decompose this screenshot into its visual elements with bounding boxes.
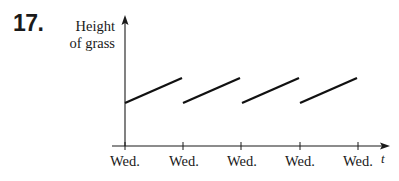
data-series-height-of-grass [125,78,357,103]
x-tick-label: Wed. [285,153,315,169]
x-tick-label: Wed. [110,153,140,169]
x-tick-label: Wed. [169,153,199,169]
segment-3 [242,78,299,103]
x-tick-label: Wed. [343,153,373,169]
chart: Wed. Wed. Wed. Wed. Wed. t [0,0,399,181]
x-tick-label: Wed. [227,153,257,169]
segment-2 [183,78,240,103]
segment-4 [300,78,357,103]
segment-1 [125,78,182,103]
x-axis-label: t [381,151,385,166]
